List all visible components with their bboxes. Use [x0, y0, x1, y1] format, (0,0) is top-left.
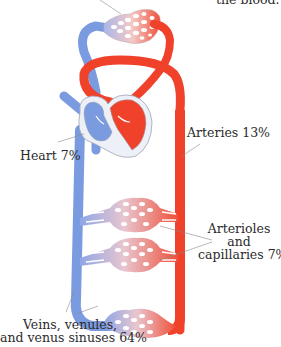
heart-illustration: [79, 95, 152, 157]
capillary-bed-2: [80, 238, 178, 273]
label-veins-line2: and venus sinuses 64%: [0, 331, 140, 344]
label-arterioles-line3: capillaries 7%: [198, 248, 280, 261]
circulation-svg: [0, 0, 281, 347]
label-veins: Veins, venules, and venus sinuses 64%: [0, 318, 140, 344]
label-heart: Heart 7%: [20, 149, 81, 162]
caption-fragment: the blood.: [216, 0, 279, 6]
circulation-diagram: the blood. Heart 7% Arteries 13% Arterio…: [0, 0, 281, 347]
label-arteries: Arteries 13%: [187, 126, 270, 139]
leader-line-top: [100, 0, 121, 14]
label-arterioles: Arterioles and capillaries 7%: [198, 222, 280, 261]
